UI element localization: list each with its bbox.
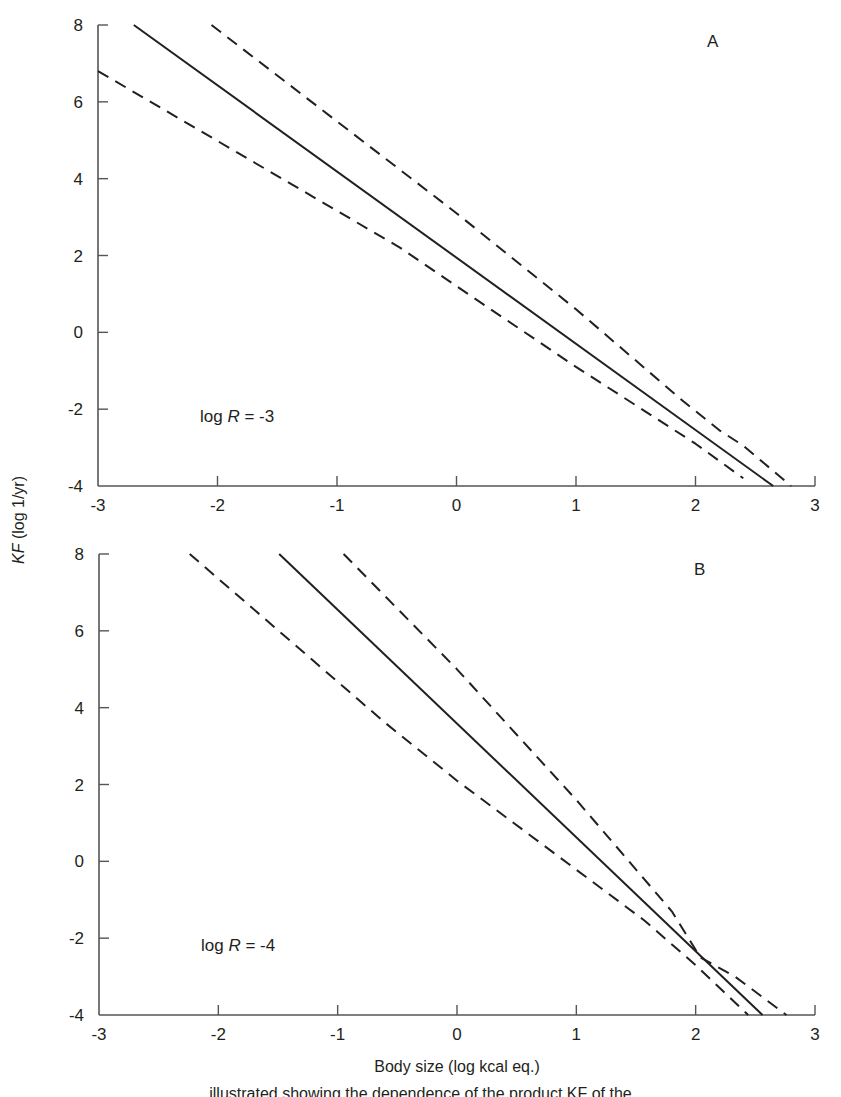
x-tick-label: 1 <box>571 496 580 515</box>
x-tick-label: -2 <box>210 496 225 515</box>
x-tick-label: 2 <box>691 496 700 515</box>
y-tick-label: 2 <box>75 776 84 795</box>
panel-letter: A <box>707 32 719 51</box>
y-tick-label: 6 <box>75 622 84 641</box>
x-tick-label: 3 <box>810 496 819 515</box>
confidence-bound-line <box>212 25 792 486</box>
regression-line <box>279 554 762 1015</box>
confidence-bound-line <box>98 71 743 478</box>
y-axis-title: KF (log 1/yr) <box>10 476 27 564</box>
x-tick-label: -1 <box>329 496 344 515</box>
y-tick-label: 4 <box>75 699 84 718</box>
figure: -4-202468-3-2-10123Alog R = -3 -4-202468… <box>0 0 841 1097</box>
x-tick-label: 3 <box>810 1025 819 1044</box>
log-r-annotation: log R = -4 <box>201 936 275 955</box>
x-tick-label: -1 <box>330 1025 345 1044</box>
caption-fragment: …illustrated showing the dependence of t… <box>0 1086 841 1097</box>
y-tick-label: -4 <box>68 477 83 496</box>
x-tick-label: -3 <box>91 1025 106 1044</box>
panel-a: -4-202468-3-2-10123Alog R = -3 <box>68 16 820 515</box>
y-tick-label: -2 <box>69 929 84 948</box>
x-tick-label: 1 <box>572 1025 581 1044</box>
x-tick-label: -2 <box>211 1025 226 1044</box>
x-axis-title: Body size (log kcal eq.) <box>374 1058 539 1075</box>
y-tick-label: 8 <box>74 16 83 35</box>
y-tick-label: 6 <box>74 93 83 112</box>
y-tick-label: 0 <box>74 323 83 342</box>
x-tick-label: 2 <box>691 1025 700 1044</box>
panel-letter: B <box>694 560 705 579</box>
confidence-bound-line <box>344 554 787 1015</box>
x-tick-label: 0 <box>452 496 461 515</box>
y-tick-label: 4 <box>74 170 83 189</box>
x-tick-label: -3 <box>90 496 105 515</box>
y-tick-label: -2 <box>68 400 83 419</box>
x-tick-label: 0 <box>452 1025 461 1044</box>
y-tick-label: -4 <box>69 1006 84 1025</box>
y-tick-label: 2 <box>74 247 83 266</box>
panel-b: -4-202468-3-2-10123Blog R = -4 <box>69 545 820 1044</box>
y-tick-label: 0 <box>75 852 84 871</box>
log-r-annotation: log R = -3 <box>200 407 274 426</box>
y-tick-label: 8 <box>75 545 84 564</box>
